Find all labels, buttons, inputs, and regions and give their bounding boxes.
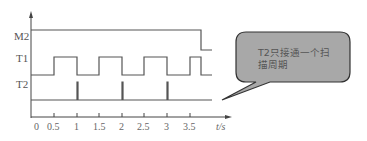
signal-label-t2: T2 xyxy=(16,78,28,90)
tick-label: 2 xyxy=(119,121,124,132)
signal-label-m2: M2 xyxy=(14,30,29,42)
tick-label: 3 xyxy=(164,121,169,132)
waveform-t2 xyxy=(31,82,212,100)
x-axis-ticks xyxy=(54,113,190,117)
callout-text: T2只接通一个扫描周期 xyxy=(258,47,338,71)
y-axis-arrow-icon xyxy=(29,11,33,18)
x-axis-unit-label: t/s xyxy=(216,121,226,132)
waveform-t1 xyxy=(31,57,212,75)
waveform-m2 xyxy=(31,30,212,50)
tick-label: 3.5 xyxy=(183,121,196,132)
tick-label: 2.5 xyxy=(137,121,150,132)
tick-label: 1.5 xyxy=(93,121,106,132)
signal-label-t1: T1 xyxy=(16,52,28,64)
x-axis-arrow-icon xyxy=(225,115,232,119)
tick-label: 0.5 xyxy=(47,121,60,132)
tick-label: 1 xyxy=(74,121,79,132)
tick-label: 0 xyxy=(34,121,39,132)
